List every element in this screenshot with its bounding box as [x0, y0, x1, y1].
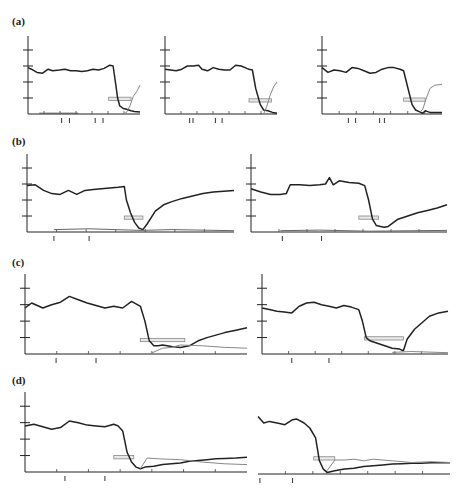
plot-b-1 [17, 150, 244, 256]
series-primary [28, 65, 140, 112]
stimulus-box [140, 338, 184, 341]
plot-d-1 [15, 388, 257, 496]
series-primary [258, 416, 450, 472]
plot-c-2 [252, 270, 458, 378]
stimulus-box [109, 97, 131, 100]
series-secondary [149, 345, 247, 354]
series-primary [251, 178, 447, 228]
plot-a-3 [312, 32, 452, 138]
series-primary [262, 302, 448, 351]
plot-a-2 [155, 32, 287, 138]
series-secondary [140, 458, 247, 469]
stimulus-box [114, 456, 134, 459]
panel-label-c: (c) [12, 256, 24, 268]
stimulus-box [364, 337, 403, 340]
stimulus-box [404, 98, 426, 101]
series-secondary [392, 352, 448, 353]
series-primary [165, 65, 277, 113]
series-primary [25, 421, 247, 469]
stimulus-box [359, 216, 379, 219]
series-primary [25, 296, 247, 347]
plot-b-2 [241, 150, 457, 256]
plot-a-1 [18, 32, 150, 138]
series-secondary [264, 82, 277, 114]
series-secondary [280, 230, 447, 231]
plot-d-2 [248, 390, 460, 496]
panel-label-a: (a) [12, 15, 25, 27]
stimulus-box [314, 457, 335, 460]
plot-c-1 [15, 270, 257, 378]
series-primary [27, 185, 234, 230]
